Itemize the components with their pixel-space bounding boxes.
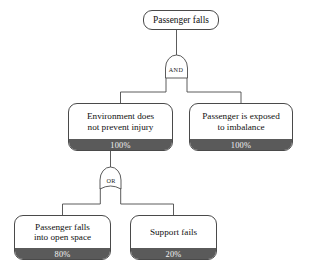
node-probability-badge: 80% (15, 248, 110, 260)
node-title: Support fails (131, 216, 216, 248)
node-probability-badge: 100% (190, 139, 292, 151)
fault-tree-node-imbalance[interactable]: Passenger is exposed to imbalance 100% (189, 103, 293, 151)
fault-tree-node-open-space[interactable]: Passenger falls into open space 80% (14, 215, 111, 260)
node-title: Passenger falls (144, 11, 218, 29)
or-gate-shape (100, 167, 121, 189)
fault-tree-node-support[interactable]: Support fails 20% (130, 215, 217, 260)
node-title: Passenger falls into open space (15, 216, 110, 248)
fault-tree-node-passenger-falls[interactable]: Passenger falls (143, 10, 219, 30)
fault-tree-diagram: AND OR Passenger falls Environment does … (0, 0, 310, 272)
node-title: Environment does not prevent injury (69, 104, 172, 139)
and-gate-shape (166, 55, 188, 78)
fault-tree-node-environment[interactable]: Environment does not prevent injury 100% (68, 103, 173, 151)
node-title: Passenger is exposed to imbalance (190, 104, 292, 139)
node-probability-badge: 20% (131, 248, 216, 260)
node-probability-badge: 100% (69, 139, 172, 151)
